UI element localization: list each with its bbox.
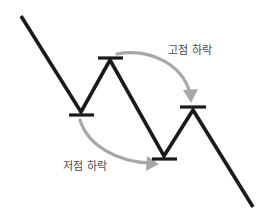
high-decline-label: 고점 하락 bbox=[168, 44, 212, 57]
price-trend-line bbox=[21, 16, 253, 207]
high-decline-arrow-head bbox=[183, 89, 198, 103]
downtrend-diagram: 고점 하락 저점 하락 bbox=[0, 0, 275, 220]
price-chart-svg bbox=[0, 0, 275, 220]
low-decline-label: 저점 하락 bbox=[63, 160, 107, 173]
high-decline-arrow-curve bbox=[117, 53, 190, 93]
low-decline-arrow-curve bbox=[80, 120, 150, 163]
